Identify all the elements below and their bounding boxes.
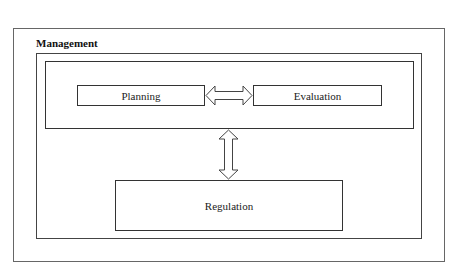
vertical-double-arrow-icon: [217, 129, 240, 180]
regulation-label: Regulation: [205, 200, 253, 212]
horizontal-double-arrow-icon: [205, 84, 253, 107]
regulation-node: Regulation: [115, 180, 343, 231]
management-title: Management: [36, 37, 98, 49]
planning-label: Planning: [121, 90, 160, 102]
evaluation-node: Evaluation: [253, 85, 382, 106]
evaluation-label: Evaluation: [294, 90, 342, 102]
planning-node: Planning: [77, 85, 205, 106]
